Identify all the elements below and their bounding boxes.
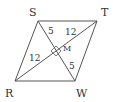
segment-mw-length: 5 [69, 61, 75, 71]
vertex-label-w: W [76, 87, 88, 100]
vertex-label-s: S [29, 6, 37, 19]
segment-mt-length: 12 [65, 27, 76, 37]
center-label-m: M [63, 44, 71, 53]
vertex-label-r: R [5, 87, 14, 100]
segment-sm-length: 5 [48, 26, 54, 36]
segment-rm-length: 12 [29, 53, 40, 63]
rhombus-diagram: S T R W M 5 12 12 5 [0, 0, 113, 102]
vertex-label-t: T [101, 6, 109, 19]
